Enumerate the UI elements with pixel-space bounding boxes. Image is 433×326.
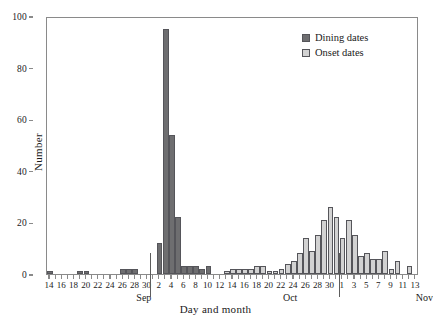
x-tick-label: 20 — [264, 280, 273, 290]
x-tick-label: 14 — [228, 280, 237, 290]
legend-item-onset: Onset dates — [302, 46, 368, 60]
month-label-nov: Nov — [416, 292, 433, 303]
bar-dining-oct-5 — [175, 217, 181, 274]
legend-swatch-onset — [302, 49, 310, 57]
y-tick-label: 20 — [17, 218, 27, 228]
x-tick-mark — [158, 275, 159, 279]
x-tick-label: 18 — [252, 280, 261, 290]
x-tick-label: 28 — [130, 280, 139, 290]
x-tick-label: 22 — [276, 280, 285, 290]
x-tick-mark — [292, 275, 293, 279]
x-tick-label: 24 — [106, 280, 115, 290]
x-tick-label: 1 — [340, 280, 345, 290]
bar-onset-oct-17 — [248, 269, 254, 274]
x-tick-mark — [152, 275, 153, 279]
x-tick-mark — [201, 275, 202, 279]
x-tick-label: 7 — [376, 280, 381, 290]
bar-dining-oct-7 — [187, 266, 193, 274]
bar-dining-sep-27 — [126, 269, 132, 274]
bar-onset-nov-12 — [407, 266, 413, 274]
x-tick-mark — [262, 275, 263, 279]
x-tick-mark — [366, 275, 367, 279]
x-tick-mark — [238, 275, 239, 279]
x-tick-mark — [372, 275, 373, 279]
bar-onset-nov-4 — [358, 256, 364, 274]
month-separator-oct — [150, 253, 151, 297]
y-tick-mark — [29, 274, 33, 275]
bar-onset-oct-27 — [309, 251, 315, 274]
x-tick-mark — [305, 275, 306, 279]
bar-onset-nov-3 — [352, 235, 358, 274]
bar-dining-oct-2 — [157, 243, 163, 274]
bar-dining-sep-20 — [84, 271, 90, 274]
x-tick-mark — [390, 275, 391, 279]
x-tick-mark — [177, 275, 178, 279]
legend-label-dining: Dining dates — [315, 31, 368, 45]
x-tick-label: 10 — [203, 280, 212, 290]
x-tick-label: 12 — [215, 280, 224, 290]
bar-onset-oct-20 — [267, 271, 273, 274]
x-tick-mark — [311, 275, 312, 279]
x-tick-mark — [73, 275, 74, 279]
x-tick-mark — [402, 275, 403, 279]
bar-onset-oct-15 — [236, 269, 242, 274]
bar-onset-nov-7 — [376, 259, 382, 274]
legend-label-onset: Onset dates — [315, 46, 364, 60]
x-tick-label: 9 — [388, 280, 393, 290]
y-tick-label: 0 — [22, 270, 27, 280]
x-tick-mark — [317, 275, 318, 279]
bar-dining-oct-10 — [206, 266, 212, 274]
x-tick-mark — [335, 275, 336, 279]
bar-dining-sep-14 — [47, 271, 53, 274]
x-tick-mark — [341, 275, 342, 279]
x-tick-label: 6 — [181, 280, 186, 290]
bar-onset-oct-18 — [254, 266, 260, 274]
legend-item-dining: Dining dates — [302, 31, 368, 45]
y-tick-mark — [29, 16, 33, 17]
bar-onset-oct-23 — [285, 264, 291, 274]
x-tick-mark — [299, 275, 300, 279]
x-tick-mark — [360, 275, 361, 279]
x-axis: 1416182022242628302468101214161820222426… — [46, 275, 418, 323]
x-tick-label: 20 — [81, 280, 90, 290]
x-tick-mark — [219, 275, 220, 279]
x-tick-mark — [207, 275, 208, 279]
bar-onset-nov-2 — [346, 220, 352, 274]
bar-onset-nov-5 — [364, 253, 370, 274]
bar-onset-oct-28 — [315, 235, 321, 274]
x-tick-mark — [48, 275, 49, 279]
x-tick-label: 11 — [398, 280, 407, 290]
x-tick-label: 5 — [364, 280, 369, 290]
x-tick-mark — [414, 275, 415, 279]
x-tick-mark — [134, 275, 135, 279]
chart-legend: Dining datesOnset dates — [302, 31, 368, 61]
bar-onset-oct-24 — [291, 261, 297, 274]
x-tick-mark — [128, 275, 129, 279]
bar-onset-nov-1 — [340, 238, 346, 274]
x-tick-label: 8 — [193, 280, 198, 290]
x-tick-label: 13 — [410, 280, 419, 290]
x-tick-mark — [384, 275, 385, 279]
bar-dining-oct-4 — [169, 135, 175, 274]
bar-onset-oct-19 — [260, 266, 266, 274]
x-tick-mark — [189, 275, 190, 279]
y-tick-mark — [29, 223, 33, 224]
x-tick-mark — [79, 275, 80, 279]
x-tick-mark — [396, 275, 397, 279]
x-tick-mark — [55, 275, 56, 279]
x-tick-mark — [353, 275, 354, 279]
bar-dining-oct-9 — [199, 269, 205, 274]
bar-dining-oct-8 — [193, 266, 199, 274]
bar-onset-oct-30 — [328, 207, 334, 274]
x-tick-mark — [256, 275, 257, 279]
bar-dining-oct-3 — [163, 29, 169, 274]
y-tick-label: 100 — [12, 12, 27, 22]
x-tick-label: 3 — [352, 280, 357, 290]
bar-onset-nov-10 — [395, 261, 401, 274]
x-tick-mark — [274, 275, 275, 279]
x-tick-mark — [347, 275, 348, 279]
x-tick-mark — [61, 275, 62, 279]
x-tick-mark — [280, 275, 281, 279]
x-tick-mark — [183, 275, 184, 279]
x-tick-mark — [268, 275, 269, 279]
